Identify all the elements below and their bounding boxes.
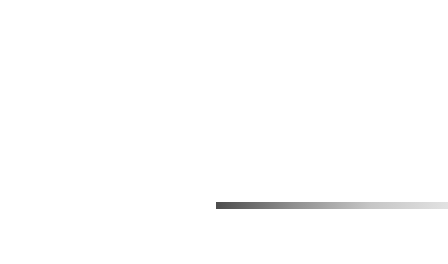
scale-legend [216,186,448,232]
chart-container [0,0,448,264]
scale-gradient-bar [216,202,448,209]
